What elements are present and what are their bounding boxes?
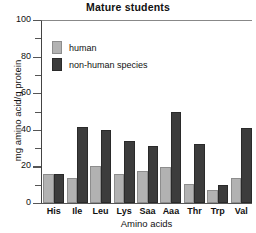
y-tick-label: 100 — [0, 14, 31, 24]
bar-leu-non-human — [101, 130, 112, 203]
bar-aaa-non-human — [171, 112, 182, 204]
bar-his-non-human — [54, 174, 65, 203]
y-tick-major — [33, 130, 41, 131]
bar-lys-non-human — [124, 141, 135, 203]
chart-figure: Mature students mg amino acid/g protein … — [0, 0, 256, 233]
legend-label-human: human — [69, 43, 97, 53]
y-tick-label: 80 — [0, 51, 31, 61]
chart-title: Mature students — [0, 1, 256, 13]
legend: human non-human species — [52, 40, 148, 74]
y-tick-label: 0 — [0, 197, 31, 207]
y-tick-major — [33, 20, 41, 21]
bar-ile-human — [67, 178, 78, 203]
y-tick-major — [33, 203, 41, 204]
legend-swatch-non-human — [52, 58, 62, 71]
legend-item-non-human: non-human species — [52, 57, 148, 72]
bar-lys-human — [114, 174, 125, 203]
bar-group — [231, 20, 252, 203]
bar-his-human — [43, 174, 54, 203]
y-tick-major — [33, 166, 41, 167]
y-tick-major — [33, 57, 41, 58]
bar-val-non-human — [241, 128, 252, 203]
bar-trp-non-human — [218, 185, 229, 203]
legend-item-human: human — [52, 40, 148, 55]
legend-swatch-human — [52, 41, 62, 54]
bar-thr-non-human — [194, 144, 205, 203]
y-tick-label: 60 — [0, 87, 31, 97]
x-tick-label-val: Val — [226, 206, 256, 216]
bar-group — [184, 20, 205, 203]
bar-ile-non-human — [77, 127, 88, 203]
bar-aaa-human — [160, 167, 171, 203]
y-tick-label: 40 — [0, 124, 31, 134]
bar-leu-human — [90, 166, 101, 203]
bar-group — [207, 20, 228, 203]
bar-group — [160, 20, 181, 203]
bar-saa-non-human — [148, 146, 159, 203]
y-tick-label: 20 — [0, 160, 31, 170]
bar-saa-human — [137, 171, 148, 203]
x-axis-label: Amino acids — [41, 218, 252, 229]
y-tick-major — [33, 93, 41, 94]
bar-val-human — [231, 178, 242, 203]
bar-thr-human — [184, 184, 195, 203]
bar-trp-human — [207, 190, 218, 203]
legend-label-non-human: non-human species — [69, 60, 148, 70]
